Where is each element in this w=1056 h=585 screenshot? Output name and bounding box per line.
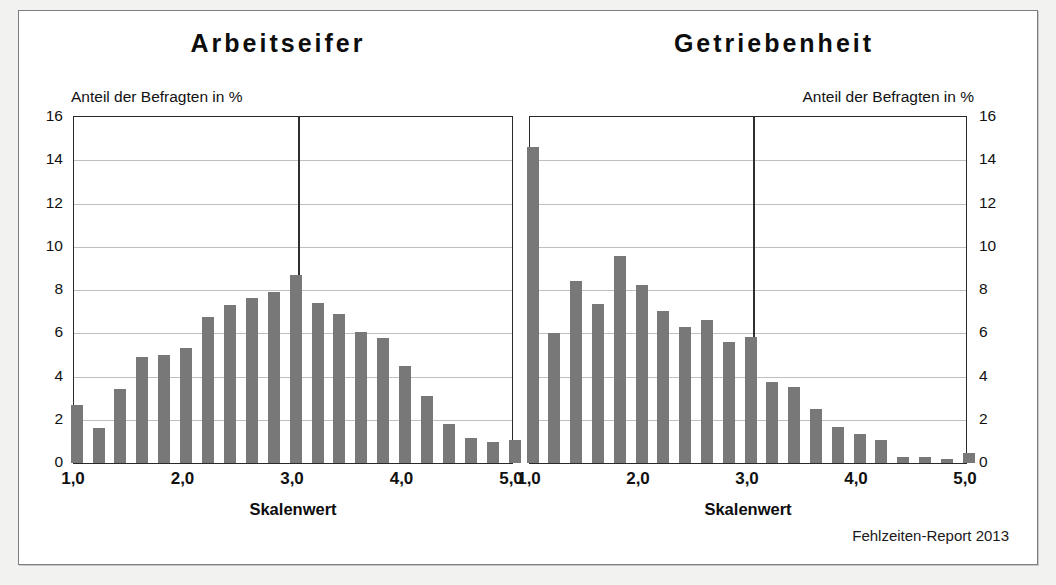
y-tick-label: 4 <box>29 368 69 384</box>
chart-title-right: Getriebenheit <box>519 29 1019 58</box>
bar <box>246 298 258 463</box>
y-tick-label: 8 <box>971 281 1011 297</box>
bar <box>114 389 126 463</box>
x-axis-title-right: Skalenwert <box>529 500 967 519</box>
bar <box>180 348 192 463</box>
bar <box>71 405 83 463</box>
y-tick-label: 2 <box>29 411 69 427</box>
bar <box>941 459 953 463</box>
bar <box>701 320 713 463</box>
y-tick-label: 6 <box>29 324 69 340</box>
chart-panel-getriebenheit: Getriebenheit Anteil der Befragten in % … <box>519 11 1019 566</box>
bar <box>788 387 800 463</box>
y-tick-label: 0 <box>971 454 1011 470</box>
bar <box>487 442 499 463</box>
bar <box>766 382 778 463</box>
x-axis-ticks-right: 1,02,03,04,05,0 <box>529 469 967 493</box>
bar <box>202 317 214 463</box>
y-tick-label: 0 <box>29 454 69 470</box>
x-tick-label: 1,0 <box>517 469 541 489</box>
bar <box>636 285 648 463</box>
figure-frame: Arbeitseifer Anteil der Befragten in % 0… <box>18 10 1038 565</box>
y-tick-label: 14 <box>971 151 1011 167</box>
bar <box>290 275 302 463</box>
bar <box>963 453 975 463</box>
bar <box>312 303 324 463</box>
bar <box>897 457 909 463</box>
bar <box>657 311 669 463</box>
y-tick-label: 10 <box>971 238 1011 254</box>
bar <box>527 147 539 463</box>
bar <box>592 304 604 463</box>
bar <box>421 396 433 463</box>
bar <box>268 292 280 463</box>
x-tick-label: 1,0 <box>61 469 85 489</box>
bar <box>399 366 411 463</box>
y-tick-label: 4 <box>971 368 1011 384</box>
x-tick-label: 4,0 <box>844 469 868 489</box>
x-tick-label: 3,0 <box>735 469 759 489</box>
bar <box>832 427 844 463</box>
x-tick-label: 3,0 <box>280 469 304 489</box>
y-axis-ticks-right: 0246810121416 <box>971 116 1011 464</box>
chart-panel-arbeitseifer: Arbeitseifer Anteil der Befragten in % 0… <box>21 11 521 566</box>
y-tick-label: 8 <box>29 281 69 297</box>
bar <box>875 440 887 463</box>
bar <box>465 438 477 463</box>
chart-title-left: Arbeitseifer <box>21 29 521 58</box>
bar <box>93 428 105 463</box>
bar <box>333 314 345 463</box>
bar <box>355 332 367 463</box>
x-tick-label: 5,0 <box>953 469 977 489</box>
plot-area-right <box>529 116 967 464</box>
y-tick-label: 10 <box>29 238 69 254</box>
bar <box>224 305 236 463</box>
bar <box>919 457 931 463</box>
plot-area-left <box>73 116 513 464</box>
y-tick-label: 16 <box>971 108 1011 124</box>
x-tick-label: 2,0 <box>171 469 195 489</box>
y-axis-note-right: Anteil der Befragten in % <box>803 88 974 106</box>
y-tick-label: 16 <box>29 108 69 124</box>
y-tick-label: 6 <box>971 324 1011 340</box>
bar <box>548 333 560 463</box>
bar <box>377 338 389 463</box>
y-tick-label: 14 <box>29 151 69 167</box>
source-footer: Fehlzeiten-Report 2013 <box>852 527 1009 544</box>
y-tick-label: 12 <box>971 195 1011 211</box>
bar <box>570 281 582 463</box>
figure-page: Arbeitseifer Anteil der Befragten in % 0… <box>0 0 1056 585</box>
bar <box>745 337 757 464</box>
x-tick-label: 2,0 <box>626 469 650 489</box>
bar <box>810 409 822 463</box>
y-tick-label: 2 <box>971 411 1011 427</box>
bar <box>443 424 455 463</box>
bar-series-right <box>530 117 966 463</box>
x-axis-title-left: Skalenwert <box>73 500 513 519</box>
y-axis-ticks-left: 0246810121416 <box>29 116 69 464</box>
bar <box>158 355 170 463</box>
x-axis-ticks-left: 1,02,03,04,05,0 <box>73 469 513 493</box>
bar <box>679 327 691 463</box>
bar <box>854 434 866 463</box>
x-tick-label: 4,0 <box>390 469 414 489</box>
bar-series-left <box>74 117 512 463</box>
bar <box>723 342 735 463</box>
bar <box>614 256 626 463</box>
y-axis-note-left: Anteil der Befragten in % <box>71 88 242 106</box>
y-tick-label: 12 <box>29 195 69 211</box>
bar <box>136 357 148 463</box>
